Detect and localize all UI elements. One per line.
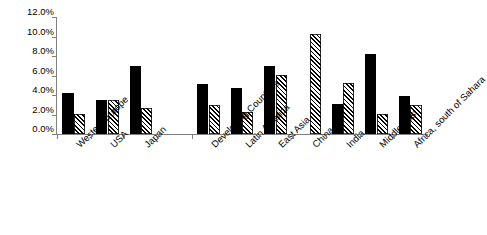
bar-hatched[interactable]	[141, 108, 152, 134]
y-axis-tick-label-12: 12.0%	[8, 7, 54, 17]
x-axis-tick-mark	[360, 134, 361, 139]
x-axis-tick-mark	[124, 134, 125, 139]
bar-group	[360, 17, 394, 134]
bar-group	[192, 17, 226, 134]
x-axis-tick-mark	[326, 134, 327, 139]
bar-solid[interactable]	[197, 84, 208, 134]
bar-group	[326, 17, 360, 134]
y-axis-tick-label-4: 4.0%	[8, 85, 54, 95]
x-axis-tick-mark	[91, 134, 92, 139]
y-axis-tick-label-10: 10.0%	[8, 27, 54, 37]
bar-hatched[interactable]	[209, 105, 220, 134]
y-axis-tick-mark-2	[52, 115, 56, 116]
x-axis-line	[56, 134, 427, 135]
y-axis-tick-label-0: 0.0%	[8, 124, 54, 134]
y-axis-tick-mark-8	[52, 56, 56, 57]
bar-solid[interactable]	[62, 93, 73, 134]
x-axis-tick-mark	[427, 134, 428, 139]
x-axis-tick-mark	[292, 134, 293, 139]
x-axis-tick-mark	[259, 134, 260, 139]
bar-hatched[interactable]	[343, 83, 354, 134]
bar-hatched[interactable]	[310, 34, 321, 134]
x-axis-tick-mark	[192, 134, 193, 139]
bar-group	[158, 17, 192, 134]
x-axis-tick-mark	[393, 134, 394, 139]
y-axis-tick-mark-4	[52, 95, 56, 96]
y-axis-tick-label-6: 6.0%	[8, 66, 54, 76]
y-axis-tick-label-2: 2.0%	[8, 105, 54, 115]
y-axis-labels: 12.0% 10.0% 8.0% 6.0% 4.0% 2.0% 0.0%	[8, 12, 54, 139]
y-axis-tick-mark-6	[52, 76, 56, 77]
y-axis-tick-label-8: 8.0%	[8, 46, 54, 56]
bar-solid[interactable]	[130, 66, 141, 134]
x-axis-tick-mark	[225, 134, 226, 139]
bar-group	[124, 17, 158, 134]
bar-group	[57, 17, 91, 134]
y-axis-tick-mark-10	[52, 37, 56, 38]
bar-solid[interactable]	[365, 54, 376, 134]
x-axis-tick-mark	[57, 134, 58, 139]
bar-group	[292, 17, 326, 134]
x-axis-tick-mark	[158, 134, 159, 139]
y-axis-tick-mark-12	[52, 17, 56, 18]
